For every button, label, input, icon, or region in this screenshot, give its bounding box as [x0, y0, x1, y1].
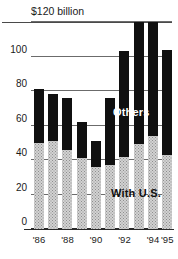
y-tick-label-20: 20 — [16, 183, 27, 193]
bar-segment-others — [148, 22, 158, 136]
stacked-bar-chart: $120 billion 020406080100 '86'88'90'92'9… — [0, 0, 178, 259]
x-tick-label-88: '88 — [57, 235, 77, 245]
y-tick-label-100: 100 — [10, 45, 27, 55]
bar-segment-others — [162, 50, 172, 155]
bar-segment-others — [91, 141, 101, 167]
x-tick-label-86: '86 — [29, 235, 49, 245]
bar-86 — [34, 89, 44, 229]
bar-90 — [91, 141, 101, 229]
y-tick-label-40: 40 — [16, 148, 27, 158]
bar-segment-with-us — [162, 155, 172, 229]
x-tick-label-95: '95 — [157, 235, 177, 245]
bar-segment-others — [77, 122, 87, 158]
bar-segment-with-us — [91, 167, 101, 229]
bar-segment-with-us — [77, 158, 87, 229]
bar-segment-with-us — [34, 143, 44, 229]
bar-segment-others — [62, 98, 72, 150]
y-tick-label-80: 80 — [16, 79, 27, 89]
bar-89 — [77, 122, 87, 229]
x-axis-line — [24, 229, 174, 230]
bar-87 — [48, 94, 58, 229]
legend-label-others: Others — [113, 107, 150, 118]
bar-95 — [162, 50, 172, 229]
bar-segment-others — [119, 51, 129, 156]
bar-segment-others — [48, 94, 58, 141]
y-tick-label-60: 60 — [16, 114, 27, 124]
bar-segment-others — [134, 22, 144, 144]
y-tick-label-0: 0 — [21, 217, 27, 227]
x-tick-label-92: '92 — [114, 235, 134, 245]
bar-segment-with-us — [148, 136, 158, 229]
bar-88 — [62, 98, 72, 229]
legend-label-with-us: With U.S. — [111, 188, 161, 199]
bar-92 — [119, 51, 129, 229]
x-tick-label-90: '90 — [86, 235, 106, 245]
bar-segment-with-us — [48, 141, 58, 229]
bar-segment-with-us — [62, 150, 72, 229]
axis-unit-label: $120 billion — [31, 6, 84, 17]
bar-segment-others — [34, 89, 44, 142]
